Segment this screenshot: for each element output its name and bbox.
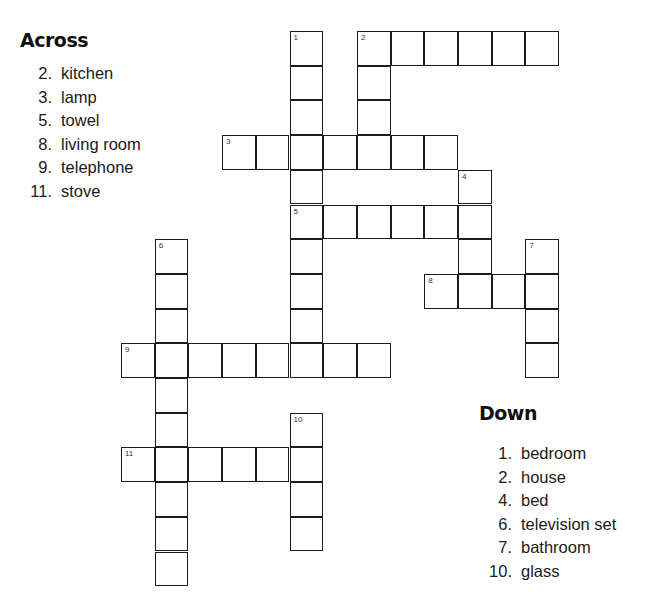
crossword-cell[interactable] [155, 447, 189, 482]
crossword-cell[interactable] [155, 413, 189, 448]
crossword-cell[interactable] [290, 100, 324, 135]
crossword-cell[interactable] [458, 274, 492, 309]
crossword-cell[interactable]: 4 [458, 170, 492, 205]
cell-clue-number: 5 [294, 207, 298, 216]
crossword-cell[interactable] [155, 378, 189, 413]
crossword-cell[interactable] [222, 447, 256, 482]
crossword-cell[interactable] [256, 135, 290, 170]
across-clue: 9.telephone [0, 156, 141, 180]
crossword-cell[interactable]: 1 [290, 31, 324, 66]
crossword-cell[interactable] [458, 239, 492, 274]
crossword-cell[interactable] [188, 447, 222, 482]
cell-clue-number: 10 [294, 415, 303, 424]
clue-word: living room [61, 133, 141, 157]
down-heading: Down [479, 402, 537, 424]
crossword-cell[interactable] [391, 135, 425, 170]
crossword-cell[interactable] [357, 343, 391, 378]
clue-number: 7. [460, 536, 512, 560]
clue-number: 2. [0, 62, 52, 86]
crossword-cell[interactable] [290, 343, 324, 378]
crossword-cell[interactable] [357, 205, 391, 240]
crossword-cell[interactable] [188, 343, 222, 378]
cell-clue-number: 9 [125, 345, 129, 354]
crossword-cell[interactable] [222, 343, 256, 378]
crossword-cell[interactable] [290, 517, 324, 552]
crossword-cell[interactable]: 9 [121, 343, 155, 378]
crossword-cell[interactable] [290, 274, 324, 309]
crossword-cell[interactable] [290, 447, 324, 482]
across-clue: 2.kitchen [0, 62, 141, 86]
crossword-cell[interactable] [458, 205, 492, 240]
clue-word: bathroom [521, 536, 591, 560]
crossword-cell[interactable]: 2 [357, 31, 391, 66]
across-heading: Across [20, 29, 88, 51]
crossword-cell[interactable]: 6 [155, 239, 189, 274]
crossword-cell[interactable] [290, 239, 324, 274]
crossword-cell[interactable] [492, 31, 526, 66]
cell-clue-number: 11 [125, 449, 133, 458]
crossword-cell[interactable] [323, 343, 357, 378]
down-clue: 4.bed [460, 489, 616, 513]
across-clue: 8.living room [0, 133, 141, 157]
down-clue: 2.house [460, 466, 616, 490]
clue-word: stove [61, 180, 100, 204]
crossword-cell[interactable]: 3 [222, 135, 256, 170]
cell-clue-number: 2 [361, 33, 365, 42]
crossword-cell[interactable] [155, 309, 189, 344]
down-clue: 7.bathroom [460, 536, 616, 560]
clue-number: 6. [460, 513, 512, 537]
crossword-cell[interactable] [424, 135, 458, 170]
crossword-cell[interactable] [290, 482, 324, 517]
crossword-cell[interactable] [357, 66, 391, 101]
cell-clue-number: 6 [159, 241, 163, 250]
clue-word: television set [521, 513, 616, 537]
clue-number: 10. [460, 560, 512, 584]
clue-number: 11. [0, 180, 52, 204]
crossword-cell[interactable] [391, 205, 425, 240]
clue-word: telephone [61, 156, 134, 180]
crossword-cell[interactable] [357, 135, 391, 170]
cell-clue-number: 3 [226, 137, 230, 146]
crossword-cell[interactable]: 10 [290, 413, 324, 448]
clue-word: kitchen [61, 62, 113, 86]
crossword-cell[interactable] [323, 205, 357, 240]
clue-word: towel [61, 109, 100, 133]
crossword-cell[interactable]: 8 [424, 274, 458, 309]
crossword-cell[interactable] [424, 31, 458, 66]
across-clue: 11.stove [0, 180, 141, 204]
crossword-cell[interactable] [492, 274, 526, 309]
crossword-cell[interactable] [155, 343, 189, 378]
crossword-cell[interactable]: 7 [525, 239, 559, 274]
crossword-cell[interactable] [525, 274, 559, 309]
crossword-cell[interactable] [155, 552, 189, 587]
clue-word: glass [521, 560, 560, 584]
down-clue: 10.glass [460, 560, 616, 584]
down-clue: 6.television set [460, 513, 616, 537]
crossword-cell[interactable] [256, 343, 290, 378]
crossword-cell[interactable] [357, 100, 391, 135]
crossword-cell[interactable] [458, 31, 492, 66]
crossword-cell[interactable] [525, 343, 559, 378]
crossword-cell[interactable] [290, 170, 324, 205]
clue-number: 4. [460, 489, 512, 513]
crossword-cell[interactable]: 11 [121, 447, 155, 482]
down-clue-list: 1.bedroom 2.house 4.bed 6.television set… [460, 442, 616, 584]
across-clue-list: 2.kitchen 3.lamp 5.towel 8.living room 9… [0, 62, 141, 204]
crossword-cell[interactable] [323, 135, 357, 170]
clue-number: 5. [0, 109, 52, 133]
clue-number: 3. [0, 86, 52, 110]
crossword-cell[interactable] [155, 517, 189, 552]
crossword-cell[interactable]: 5 [290, 205, 324, 240]
crossword-cell[interactable] [525, 309, 559, 344]
crossword-cell[interactable] [424, 205, 458, 240]
clue-word: house [521, 466, 566, 490]
crossword-cell[interactable] [256, 447, 290, 482]
crossword-cell[interactable] [155, 274, 189, 309]
crossword-cell[interactable] [290, 309, 324, 344]
crossword-cell[interactable] [290, 66, 324, 101]
clue-number: 8. [0, 133, 52, 157]
crossword-cell[interactable] [525, 31, 559, 66]
crossword-cell[interactable] [290, 135, 324, 170]
crossword-cell[interactable] [155, 482, 189, 517]
crossword-cell[interactable] [391, 31, 425, 66]
